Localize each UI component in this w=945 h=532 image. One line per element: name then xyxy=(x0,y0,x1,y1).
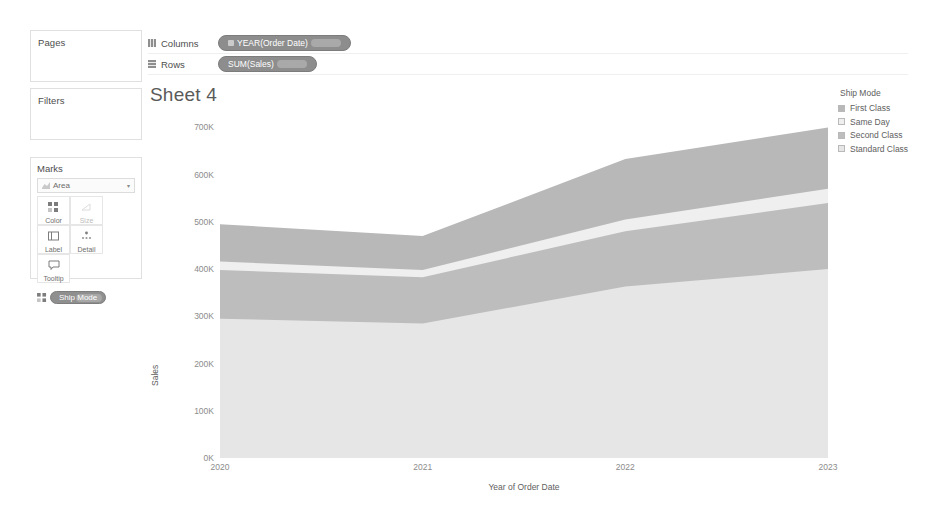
area-chart-icon xyxy=(42,181,50,191)
shelf-area: Columns YEAR(Order Date) Rows xyxy=(148,33,908,75)
tooltip-button-label: Tooltip xyxy=(43,275,63,282)
mark-type-label: Area xyxy=(53,181,70,190)
rows-grid-icon xyxy=(148,59,156,70)
legend-item-label: First Class xyxy=(850,103,890,113)
y-tick-label: 200K xyxy=(170,359,214,369)
chevron-down-icon[interactable]: ▾ xyxy=(127,182,130,189)
size-button-label: Size xyxy=(80,217,94,224)
sheet-title[interactable]: Sheet 4 xyxy=(150,84,217,106)
columns-label: Columns xyxy=(161,38,199,49)
legend-item-label: Second Class xyxy=(850,130,902,140)
size-button[interactable]: Size xyxy=(70,196,103,225)
filters-shelf[interactable]: Filters xyxy=(30,88,142,140)
color-icon xyxy=(37,288,47,306)
pill-tail xyxy=(311,39,341,47)
chart-area: Sales 0K100K200K300K400K500K600K700K 202… xyxy=(150,118,830,508)
x-tick-label: 2020 xyxy=(211,462,230,472)
legend-swatch-icon xyxy=(838,145,845,152)
legend-items: First ClassSame DaySecond ClassStandard … xyxy=(838,103,938,154)
stacked-area-svg xyxy=(220,118,828,458)
legend-item[interactable]: Second Class xyxy=(838,130,938,140)
x-axis-title: Year of Order Date xyxy=(220,482,828,492)
tooltip-button[interactable]: Tooltip xyxy=(37,254,70,283)
color-button[interactable]: Color xyxy=(37,196,70,225)
columns-shelf-label-group: Columns xyxy=(148,38,218,49)
color-button-label: Color xyxy=(45,217,62,224)
legend-item[interactable]: Same Day xyxy=(838,117,938,127)
tooltip-icon xyxy=(48,256,60,274)
detail-icon xyxy=(81,227,92,245)
legend-item[interactable]: Standard Class xyxy=(838,144,938,154)
y-axis-title: Sales xyxy=(150,365,160,386)
marks-card: Marks Area ▾ xyxy=(30,157,142,279)
size-icon xyxy=(81,198,92,216)
legend-item[interactable]: First Class xyxy=(838,103,938,113)
color-encoding-row: Ship Mode xyxy=(37,288,135,306)
y-tick-label: 400K xyxy=(170,264,214,274)
rows-label: Rows xyxy=(161,59,185,70)
legend-swatch-icon xyxy=(838,105,845,112)
y-tick-label: 500K xyxy=(170,217,214,227)
detail-button[interactable]: Detail xyxy=(70,225,103,254)
tableau-worksheet: Pages Filters Marks Area ▾ xyxy=(0,0,945,532)
legend-title: Ship Mode xyxy=(838,88,938,98)
color-icon xyxy=(48,198,59,216)
columns-shelf[interactable]: Columns YEAR(Order Date) xyxy=(148,33,908,54)
rows-shelf[interactable]: Rows SUM(Sales) xyxy=(148,54,908,75)
columns-pill-label: YEAR(Order Date) xyxy=(237,38,308,48)
legend-swatch-icon xyxy=(838,118,845,125)
x-axis-ticks: 2020202120222023 xyxy=(220,462,828,476)
legend-swatch-icon xyxy=(838,132,845,139)
y-tick-label: 300K xyxy=(170,311,214,321)
filters-label: Filters xyxy=(38,95,134,106)
label-button[interactable]: Label xyxy=(37,225,70,254)
legend-ship-mode: Ship Mode First ClassSame DaySecond Clas… xyxy=(838,88,938,157)
marks-button-grid: Color Size Label xyxy=(37,196,135,283)
x-tick-label: 2022 xyxy=(616,462,635,472)
area-chart-plot xyxy=(220,118,828,458)
legend-item-label: Same Day xyxy=(850,117,890,127)
detail-button-label: Detail xyxy=(78,246,96,253)
marks-label: Marks xyxy=(37,163,135,174)
x-tick-label: 2023 xyxy=(819,462,838,472)
calendar-icon xyxy=(228,40,234,46)
ship-mode-pill[interactable]: Ship Mode xyxy=(50,291,106,304)
x-tick-label: 2021 xyxy=(413,462,432,472)
rows-pill-sum-sales[interactable]: SUM(Sales) xyxy=(218,56,317,72)
y-tick-label: 0K xyxy=(170,453,214,463)
columns-grid-icon xyxy=(148,38,156,49)
y-tick-label: 700K xyxy=(170,122,214,132)
rows-pill-label: SUM(Sales) xyxy=(228,59,274,69)
pages-label: Pages xyxy=(38,37,134,48)
label-button-label: Label xyxy=(45,246,62,253)
pages-shelf[interactable]: Pages xyxy=(30,30,142,82)
rows-shelf-label-group: Rows xyxy=(148,59,218,70)
columns-pill-year-order-date[interactable]: YEAR(Order Date) xyxy=(218,35,351,51)
y-tick-label: 100K xyxy=(170,406,214,416)
label-icon xyxy=(48,227,59,245)
left-shelf-column: Pages Filters Marks Area ▾ xyxy=(30,30,142,279)
pill-tail xyxy=(277,60,307,68)
mark-type-dropdown[interactable]: Area ▾ xyxy=(37,178,135,193)
y-tick-label: 600K xyxy=(170,170,214,180)
legend-item-label: Standard Class xyxy=(850,144,908,154)
y-axis-ticks: 0K100K200K300K400K500K600K700K xyxy=(162,118,214,458)
